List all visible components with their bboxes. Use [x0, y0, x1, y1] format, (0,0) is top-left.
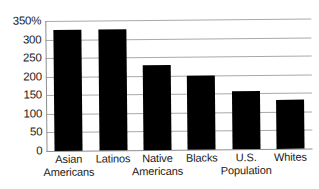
x-category-label-line2: Americans [126, 165, 188, 179]
bar [54, 30, 83, 151]
x-category-label-line1: Whites [259, 150, 319, 164]
bar [98, 30, 127, 151]
bar-slot [275, 19, 304, 149]
x-category-label-line2: Americans [38, 166, 100, 180]
chart-skew-wrapper: 050100150200250300350% AsianAmericansLat… [0, 0, 319, 189]
y-tick-label: 250 [23, 53, 42, 65]
bars-layer [45, 19, 312, 152]
y-tick-label: 350% [13, 15, 42, 27]
x-category-label: Whites [259, 150, 319, 164]
y-tick-label: 150 [23, 90, 42, 102]
bar-slot [142, 20, 171, 150]
x-category-label-line2: Population [215, 164, 277, 178]
bar [231, 91, 260, 149]
y-tick-label: 100 [24, 108, 43, 120]
bar [143, 65, 172, 150]
y-tick-label: 50 [30, 127, 43, 139]
bar-slot [231, 19, 260, 149]
x-axis-category-labels: AsianAmericansLatinosNativeAmericansBlac… [47, 151, 313, 189]
bar-slot [186, 19, 215, 149]
bar-chart-figure: 050100150200250300350% AsianAmericansLat… [0, 0, 319, 189]
y-tick-label: 200 [23, 71, 42, 83]
y-tick-label: 300 [23, 34, 42, 46]
bar [187, 75, 216, 150]
bar-slot [53, 21, 82, 151]
bar-slot [98, 20, 127, 150]
bar [276, 99, 304, 149]
scan-edge [0, 186, 319, 189]
